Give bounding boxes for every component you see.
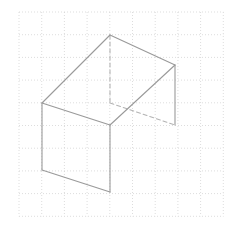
hidden-edge-back-to-bottom-right [110,103,175,125]
figure-canvas [0,0,231,228]
edge-top-left-to-apex [42,35,110,103]
edge-top-right-to-top-front [110,65,175,125]
geometry-figure [0,0,231,228]
edge-apex-to-top-right [110,35,175,65]
edge-top-front-to-top-left [42,103,110,125]
edge-bottom-left-to-bottom-front [42,170,110,192]
